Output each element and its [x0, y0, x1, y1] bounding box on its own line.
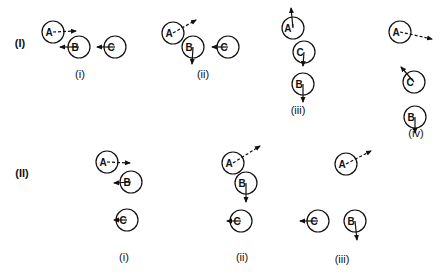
ball-b: B: [60, 36, 90, 58]
panel-2-2: ABC(ii): [222, 146, 260, 263]
ball-label: A: [225, 158, 232, 169]
diagram-svg: (I)ABC(i)ABC(ii)A'CB(iii)ACB(iv)(II)ABC(…: [0, 0, 441, 275]
ball-b: B: [344, 210, 366, 240]
ball-a: A: [335, 151, 371, 175]
ball-c: C: [114, 209, 138, 231]
row-label: (I): [15, 37, 26, 49]
ball-c: C: [212, 36, 239, 58]
panel-1-2: ABC(ii): [162, 20, 239, 80]
row-2: (II)ABC(i)ABC(ii)ACB(iii): [15, 146, 371, 265]
ball-a: A: [96, 151, 130, 173]
panel-label: (ii): [197, 68, 209, 80]
panel-label: (iii): [335, 253, 350, 265]
panel-label: (i): [119, 251, 129, 263]
ball-a: A: [222, 146, 260, 174]
ball-label: C: [406, 77, 413, 88]
row-label: (II): [15, 167, 29, 179]
ball-label: A: [338, 159, 345, 170]
panel-1-1: ABC(i): [42, 21, 126, 80]
dashed-velocity-arrow-icon: [233, 146, 260, 163]
ball-label: B: [407, 112, 414, 123]
ball-c: C: [401, 67, 425, 93]
ball-c: C: [227, 210, 252, 232]
ball-label: B: [347, 216, 354, 227]
ball-label: B: [185, 42, 192, 53]
panel-label: (ii): [236, 251, 248, 263]
ball-label: A: [165, 28, 172, 39]
velocity-arrow-icon: [355, 221, 357, 240]
dashed-velocity-arrow-icon: [346, 151, 371, 164]
panel-label: (iii): [291, 104, 306, 116]
panel-label: (i): [75, 68, 85, 80]
ball-c: C: [97, 36, 126, 58]
dashed-velocity-arrow-icon: [53, 31, 76, 32]
ball-label: A: [45, 27, 52, 38]
panel-label: (iv): [408, 127, 423, 139]
ball-label: C: [296, 47, 303, 58]
ball-label: A: [99, 157, 106, 168]
ball-b: B: [235, 172, 257, 202]
ball-label: B: [295, 79, 302, 90]
ball-b: B: [114, 171, 142, 193]
panel-1-4: ACB(iv): [389, 21, 432, 139]
ball-b: B: [292, 73, 314, 102]
row-1: (I)ABC(i)ABC(ii)A'CB(iii)ACB(iv): [15, 8, 432, 139]
ball-label: B: [238, 178, 245, 189]
ball-a: A: [389, 21, 432, 43]
dashed-velocity-arrow-icon: [400, 32, 432, 39]
collision-diagram: (I)ABC(i)ABC(ii)A'CB(iii)ACB(iv)(II)ABC(…: [0, 0, 441, 275]
panel-2-1: ABC(i): [96, 151, 142, 263]
ball-label: A: [392, 27, 399, 38]
ball-c: C: [300, 210, 329, 232]
ball-aprime: A': [282, 8, 304, 39]
ball-a: A: [162, 20, 196, 44]
panel-2-3: ACB(iii): [300, 151, 371, 265]
panel-1-3: A'CB(iii): [282, 8, 315, 116]
ball-b: B: [182, 36, 204, 64]
ball-c: C: [293, 41, 315, 66]
dashed-velocity-arrow-icon: [107, 162, 130, 163]
